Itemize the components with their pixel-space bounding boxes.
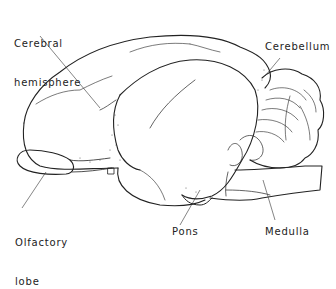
leader-medulla (263, 180, 275, 220)
medulla-shape (210, 166, 322, 200)
label-cerebellum: Cerebellum (265, 40, 330, 53)
leader-olfactory-lobe (22, 172, 46, 208)
label-olfactory-lobe: Olfactory lobe (15, 210, 68, 289)
label-cerebral-hemisphere: Cerebral hemisphere (14, 11, 81, 102)
leader-cerebellum (265, 58, 280, 76)
label-medulla: Medulla (265, 225, 310, 238)
label-olfactory-lobe-line1: Olfactory (15, 236, 68, 249)
olfactory-lobe-shape (17, 150, 73, 174)
cerebellum-outline (250, 69, 324, 168)
label-cerebral-hemisphere-line2: hemisphere (14, 76, 81, 89)
label-olfactory-lobe-line2: lobe (15, 275, 68, 288)
label-pons: Pons (172, 225, 199, 238)
label-cerebral-hemisphere-line1: Cerebral (14, 37, 81, 50)
